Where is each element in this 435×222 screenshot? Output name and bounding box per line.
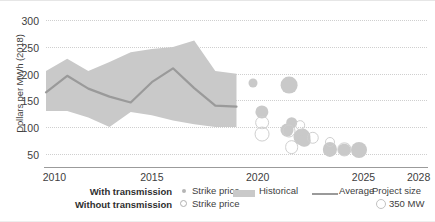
x-axis-tick-label: 2028 xyxy=(407,171,430,183)
strike-price-bubble xyxy=(249,79,258,88)
strike-price-bubble xyxy=(295,120,305,130)
legend-project-size-title: Project size xyxy=(372,185,421,196)
strike-price-bubble xyxy=(281,77,298,94)
plot-area: 50100150200250300 xyxy=(46,15,427,167)
legend-strike-price-without: Strike price xyxy=(192,198,240,209)
chart-legend: With transmission Without transmission S… xyxy=(0,185,435,222)
strike-price-bubble xyxy=(285,140,299,154)
legend-label-with-transmission: With transmission xyxy=(22,186,172,197)
historical-band xyxy=(46,41,237,127)
strike-price-bubble xyxy=(254,127,269,142)
project-size-circle-icon xyxy=(376,199,386,209)
x-axis-tick-label: 2015 xyxy=(140,171,163,183)
strike-price-bubble xyxy=(325,137,335,147)
y-axis-tick-label: 150 xyxy=(21,95,39,107)
y-axis-tick-label: 250 xyxy=(21,42,39,54)
series-layer xyxy=(46,15,427,167)
y-axis-tick-label: 200 xyxy=(21,69,39,81)
strike-price-bubble xyxy=(283,125,296,138)
y-axis-title: Dollars per MWh (2018) xyxy=(14,11,25,156)
filled-circle-icon xyxy=(182,189,186,193)
x-axis-tick-label: 2010 xyxy=(43,171,66,183)
legend-historical-label: Historical xyxy=(259,185,298,196)
y-axis-tick-label: 300 xyxy=(21,15,39,27)
legend-average-label: Average xyxy=(339,185,374,196)
y-axis-tick-label: 100 xyxy=(21,122,39,134)
legend-label-without-transmission: Without transmission xyxy=(22,199,172,210)
x-axis-tick-label: 2020 xyxy=(246,171,269,183)
chart-container: Dollars per MWh (2018) 50100150200250300… xyxy=(0,0,435,222)
x-axis-line xyxy=(44,167,428,168)
legend-project-size-value: 350 MW xyxy=(389,198,424,209)
x-axis-tick-label: 2025 xyxy=(352,171,375,183)
y-axis-tick-label: 50 xyxy=(27,149,39,161)
strike-price-bubble xyxy=(351,142,367,158)
historical-swatch-icon xyxy=(233,190,255,197)
open-circle-icon xyxy=(180,200,187,207)
average-line-icon xyxy=(312,193,338,195)
